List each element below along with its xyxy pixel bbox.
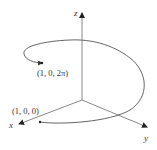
helix-diagram: z x y (1, 0, 0) (1, 0, 2π)	[0, 0, 157, 150]
point-start-label: (1, 0, 0)	[12, 106, 39, 116]
helix-curve	[24, 40, 144, 123]
point-start	[39, 121, 41, 123]
point-end	[41, 62, 43, 64]
x-axis-label: x	[8, 120, 13, 130]
point-end-label: (1, 0, 2π)	[37, 68, 68, 78]
y-axis-label: y	[143, 133, 148, 143]
z-axis-label: z	[73, 8, 78, 18]
